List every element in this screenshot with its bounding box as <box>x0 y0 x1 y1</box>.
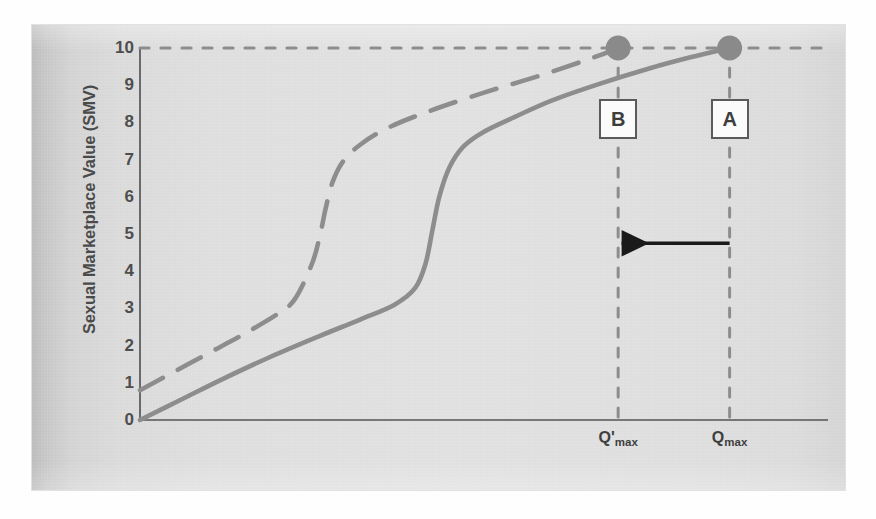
q-max-base: Q <box>712 429 724 446</box>
figure-root: Sexual Marketplace Value (SMV) 109876543… <box>0 0 876 519</box>
x-tick-label-q-max: Qmax <box>712 429 747 447</box>
q-prime-max-sub: max <box>615 436 638 448</box>
point-b-marker <box>606 36 631 61</box>
point-a-marker <box>717 36 742 61</box>
plot-canvas <box>32 25 845 490</box>
shifted-smv-curve <box>140 48 618 390</box>
base-smv-curve <box>140 48 730 420</box>
q-max-sub: max <box>724 436 747 448</box>
callout-box-a: A <box>711 99 749 139</box>
callout-box-b: B <box>599 99 637 139</box>
chart-panel: Sexual Marketplace Value (SMV) 109876543… <box>32 25 845 490</box>
callout-b-label: B <box>611 108 625 131</box>
x-tick-label-q-prime-max: Q'max <box>599 429 638 447</box>
callout-a-label: A <box>722 108 736 131</box>
q-prime-max-base: Q' <box>599 429 615 446</box>
